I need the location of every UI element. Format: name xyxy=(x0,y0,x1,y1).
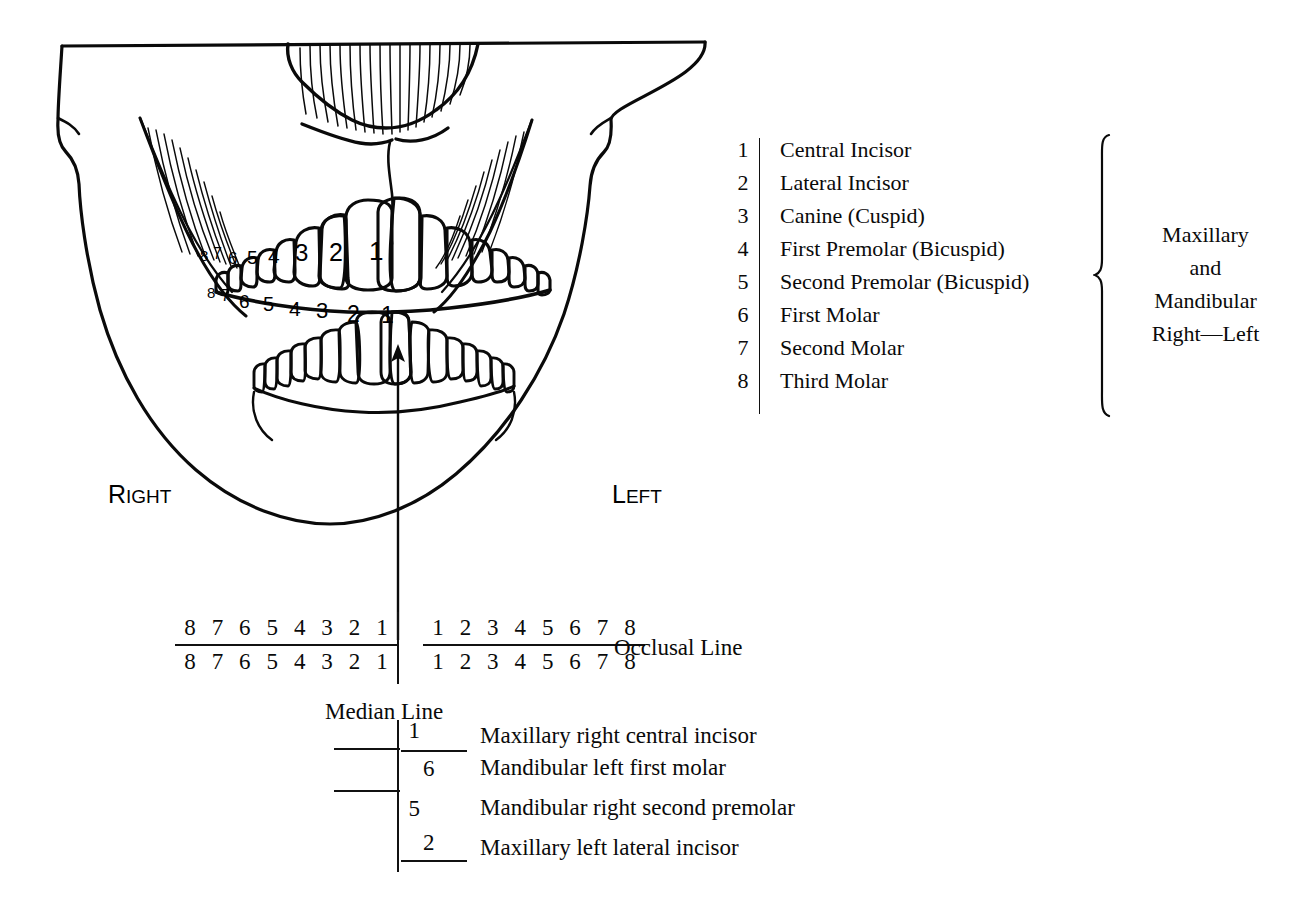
occ-lr-3: 5 xyxy=(261,646,283,678)
legend-number: 5 xyxy=(728,265,758,298)
occ-ur-4: 4 xyxy=(289,612,311,644)
legend-label: Lateral Incisor xyxy=(758,166,909,199)
dental-numbering-figure: 8 7 6 5 4 3 2 1 8 7 6 5 4 3 2 1 RIGHT LE… xyxy=(0,0,1294,915)
occ-ll-3: 4 xyxy=(509,646,531,678)
occlusal-upper-right-row: 8 7 6 5 4 3 2 1 xyxy=(175,612,397,644)
legend-number: 8 xyxy=(728,364,758,397)
occ-ll-6: 7 xyxy=(592,646,614,678)
occ-ll-4: 5 xyxy=(537,646,559,678)
example-row-4: 2 Maxillary left lateral incisor xyxy=(330,830,950,868)
legend-label: First Premolar (Bicuspid) xyxy=(758,232,1005,265)
occ-ul-2: 3 xyxy=(482,612,504,644)
example-digit-1: 1 xyxy=(330,718,466,744)
tooth-number-upper-3: 3 xyxy=(295,241,308,265)
occlusal-right-side: 8 7 6 5 4 3 2 1 8 7 6 5 4 3 2 1 xyxy=(175,612,397,678)
tooth-number-lower-5: 5 xyxy=(263,294,274,314)
legend-row: 8 Third Molar xyxy=(728,364,1098,397)
legend-row: 3 Canine (Cuspid) xyxy=(728,199,1098,232)
example-bar-3 xyxy=(334,790,400,792)
occ-ur-5: 3 xyxy=(316,612,338,644)
tooth-number-upper-6: 6 xyxy=(228,250,237,267)
occ-ur-7: 1 xyxy=(371,612,393,644)
legend-row: 7 Second Molar xyxy=(728,331,1098,364)
tooth-number-upper-1: 1 xyxy=(369,238,383,264)
group-line-1: Maxillary xyxy=(1118,218,1293,251)
legend-number: 4 xyxy=(728,232,758,265)
label-right-initial: R xyxy=(108,480,126,508)
occ-ul-0: 1 xyxy=(427,612,449,644)
legend-row: 2 Lateral Incisor xyxy=(728,166,1098,199)
occlusal-median-divider xyxy=(397,612,399,684)
legend-number: 2 xyxy=(728,166,758,199)
median-line-arrow xyxy=(378,340,420,640)
tooth-number-lower-6: 6 xyxy=(239,292,250,311)
group-line-3: Mandibular xyxy=(1118,284,1293,317)
legend-label: Second Premolar (Bicuspid) xyxy=(758,265,1029,298)
occ-ur-6: 2 xyxy=(344,612,366,644)
legend-label: Second Molar xyxy=(758,331,904,364)
occ-ur-3: 5 xyxy=(261,612,283,644)
example-row-3: 5 Mandibular right second premolar xyxy=(330,790,950,828)
legend-number: 1 xyxy=(728,133,758,166)
legend-label: First Molar xyxy=(758,298,880,331)
occ-ul-5: 6 xyxy=(564,612,586,644)
label-right: RIGHT xyxy=(108,482,171,507)
occ-ll-2: 3 xyxy=(482,646,504,678)
occ-lr-0: 8 xyxy=(179,646,201,678)
legend-number: 3 xyxy=(728,199,758,232)
occ-lr-2: 6 xyxy=(234,646,256,678)
tooth-number-upper-2: 2 xyxy=(329,240,343,265)
occ-lr-1: 7 xyxy=(206,646,228,678)
tooth-number-lower-1: 1 xyxy=(381,304,394,327)
example-bar-4 xyxy=(401,860,467,862)
tooth-number-upper-8: 8 xyxy=(200,248,208,263)
group-line-2: and xyxy=(1118,251,1293,284)
example-text-1: Maxillary right central incisor xyxy=(480,721,757,751)
group-line-4: Right—Left xyxy=(1118,317,1293,350)
legend-divider-rule xyxy=(759,138,760,414)
tooth-number-upper-4: 4 xyxy=(268,245,280,266)
occ-ul-4: 5 xyxy=(537,612,559,644)
tooth-number-upper-5: 5 xyxy=(247,248,258,267)
occ-ur-1: 7 xyxy=(206,612,228,644)
tooth-name-legend: 1 Central Incisor 2 Lateral Incisor 3 Ca… xyxy=(728,133,1098,397)
occlusal-upper-left-row: 1 2 3 4 5 6 7 8 xyxy=(423,612,645,644)
legend-number: 7 xyxy=(728,331,758,364)
label-left: LEFT xyxy=(612,482,662,507)
label-right-rest: IGHT xyxy=(126,486,171,507)
example-text-3: Mandibular right second premolar xyxy=(480,793,795,823)
legend-number: 6 xyxy=(728,298,758,331)
occlusal-notation-grid: 8 7 6 5 4 3 2 1 8 7 6 5 4 3 2 1 xyxy=(175,612,645,684)
occ-lr-6: 2 xyxy=(344,646,366,678)
occ-ll-5: 6 xyxy=(564,646,586,678)
legend-label: Central Incisor xyxy=(758,133,911,166)
label-left-rest: EFT xyxy=(626,486,662,507)
label-left-initial: L xyxy=(612,480,626,508)
occlusal-lower-right-row: 8 7 6 5 4 3 2 1 xyxy=(175,646,397,678)
occ-ur-2: 6 xyxy=(234,612,256,644)
occ-ll-0: 1 xyxy=(427,646,449,678)
occ-lr-5: 3 xyxy=(316,646,338,678)
legend-row: 6 First Molar xyxy=(728,298,1098,331)
occ-lr-7: 1 xyxy=(371,646,393,678)
tooth-number-lower-2: 2 xyxy=(347,303,360,326)
tooth-number-upper-7: 7 xyxy=(213,246,222,262)
occ-ur-0: 8 xyxy=(179,612,201,644)
notation-examples: 1 Maxillary right central incisor 6 Mand… xyxy=(330,718,950,878)
tooth-number-lower-3: 3 xyxy=(316,300,328,322)
occ-ul-1: 2 xyxy=(454,612,476,644)
legend-row: 5 Second Premolar (Bicuspid) xyxy=(728,265,1098,298)
tooth-number-lower-7: 7 xyxy=(221,288,230,304)
example-text-2: Mandibular left first molar xyxy=(480,753,726,783)
legend-row: 1 Central Incisor xyxy=(728,133,1098,166)
tooth-number-lower-4: 4 xyxy=(289,298,301,319)
example-bar-2 xyxy=(401,750,467,752)
example-quadrant-lower-left: 5 xyxy=(330,790,466,828)
legend-label: Third Molar xyxy=(758,364,888,397)
occlusal-left-side: 1 2 3 4 5 6 7 8 1 2 3 4 5 6 7 8 xyxy=(423,612,645,678)
occ-ul-6: 7 xyxy=(592,612,614,644)
occ-ll-1: 2 xyxy=(454,646,476,678)
legend-row: 4 First Premolar (Bicuspid) xyxy=(728,232,1098,265)
legend-label: Canine (Cuspid) xyxy=(758,199,925,232)
occ-ul-3: 4 xyxy=(509,612,531,644)
